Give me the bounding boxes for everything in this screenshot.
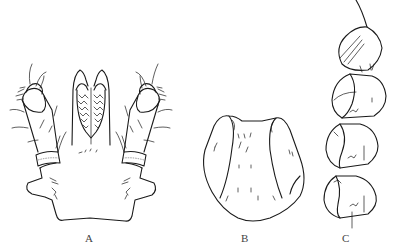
panel-label-a: A [85, 233, 93, 244]
panel-a-drawing [10, 64, 172, 221]
figure-drawing [0, 0, 400, 252]
panel-label-b: B [241, 233, 248, 244]
panel-c-drawing [324, 0, 386, 228]
panel-label-c: C [342, 233, 349, 244]
panel-b-drawing [204, 116, 304, 221]
